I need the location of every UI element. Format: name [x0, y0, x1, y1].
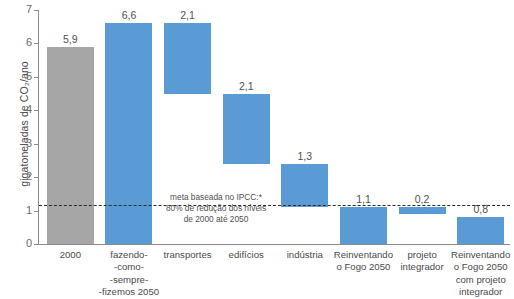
x-axis-category-line: -fizemos 2050: [93, 286, 164, 298]
bar[interactable]: [164, 23, 211, 93]
y-axis-tick-label: 3: [14, 138, 32, 149]
bar-value-label: 1,3: [267, 151, 342, 162]
ipcc-target-note-line-3: de 2000 até 2050: [160, 214, 272, 225]
ipcc-target-note-line-1: meta baseada no IPCC:*: [160, 192, 272, 203]
bar-value-label: 2,1: [150, 10, 225, 21]
ipcc-target-note-line-2: 80% de redução dos níveis: [160, 203, 272, 214]
y-axis-tick-mark: [34, 77, 39, 78]
bar[interactable]: [340, 207, 387, 244]
y-axis-tick-label: 0: [14, 238, 32, 249]
x-axis-category-label: Reinventandoo Fogo 2050com projetointegr…: [445, 249, 514, 298]
ipcc-target-line: [39, 205, 510, 206]
x-axis-line: [38, 244, 510, 245]
x-axis-category-line: o Fogo 2050: [445, 261, 514, 273]
x-axis-category-line: com projeto: [445, 274, 514, 286]
x-axis-category-line: integrador: [445, 286, 514, 298]
bar[interactable]: [281, 164, 328, 207]
y-axis-tick-mark: [34, 211, 39, 212]
bar[interactable]: [399, 207, 446, 214]
y-axis-tick-mark: [34, 144, 39, 145]
bar[interactable]: [223, 94, 270, 164]
bar[interactable]: [47, 47, 94, 244]
y-axis-tick-mark: [34, 10, 39, 11]
x-axis-category-line: -sempre-: [93, 274, 164, 286]
bar[interactable]: [457, 217, 504, 244]
y-axis-tick-label: 6: [14, 37, 32, 48]
x-axis-category-line: -como-: [93, 261, 164, 273]
y-axis-tick-label: 4: [14, 104, 32, 115]
y-axis-tick-mark: [34, 110, 39, 111]
bar-value-label: 2,1: [209, 81, 284, 92]
y-axis-tick-mark: [34, 177, 39, 178]
y-axis-tick-label: 5: [14, 71, 32, 82]
x-axis-category-line: Reinventando: [445, 249, 514, 261]
ipcc-target-note: meta baseada no IPCC:* 80% de redução do…: [160, 192, 272, 225]
y-axis-tick-label: 2: [14, 171, 32, 182]
y-axis-tick-label: 1: [14, 205, 32, 216]
waterfall-chart: gigatoneladas de CO₂/ano 76543210 5,96,6…: [0, 0, 514, 299]
y-axis-tick-label: 7: [14, 4, 32, 15]
bar-value-label: 5,9: [33, 34, 108, 45]
bar[interactable]: [105, 23, 152, 244]
bar-value-label: 0,2: [385, 194, 460, 205]
